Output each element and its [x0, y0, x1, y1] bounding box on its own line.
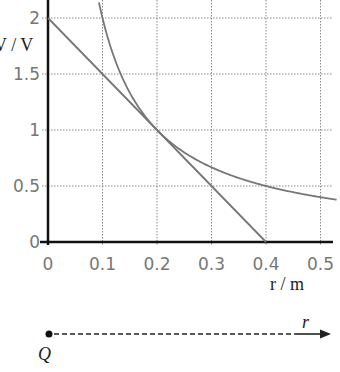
y-tick-label: 1 [29, 120, 40, 140]
y-tick-label: 1.5 [13, 64, 40, 84]
y-tick-label: 0.5 [13, 176, 40, 196]
y-axis-label: V / V [0, 35, 33, 55]
x-tick-label: 0 [43, 254, 54, 274]
x-tick-labels: 00.10.20.30.40.5 [43, 254, 334, 274]
x-tick-label: 0.4 [252, 254, 279, 274]
y-tick-label: 0 [29, 232, 40, 252]
data-series [48, 2, 337, 242]
direction-label: r [302, 312, 310, 332]
arrow-head-icon [320, 330, 331, 339]
chart: 00.511.52 00.10.20.30.40.5 V / V r / m Q… [0, 0, 340, 372]
charge-diagram: Q r [38, 312, 331, 364]
curve-series [99, 2, 337, 199]
gridlines [42, 0, 333, 246]
axes [40, 0, 333, 245]
point-charge [46, 331, 53, 338]
charge-label: Q [38, 344, 51, 364]
x-tick-label: 0.1 [89, 254, 116, 274]
x-tick-label: 0.5 [307, 254, 334, 274]
x-tick-label: 0.3 [198, 254, 225, 274]
y-tick-label: 2 [29, 8, 40, 28]
x-axis-label: r / m [270, 274, 304, 294]
x-tick-label: 0.2 [143, 254, 170, 274]
